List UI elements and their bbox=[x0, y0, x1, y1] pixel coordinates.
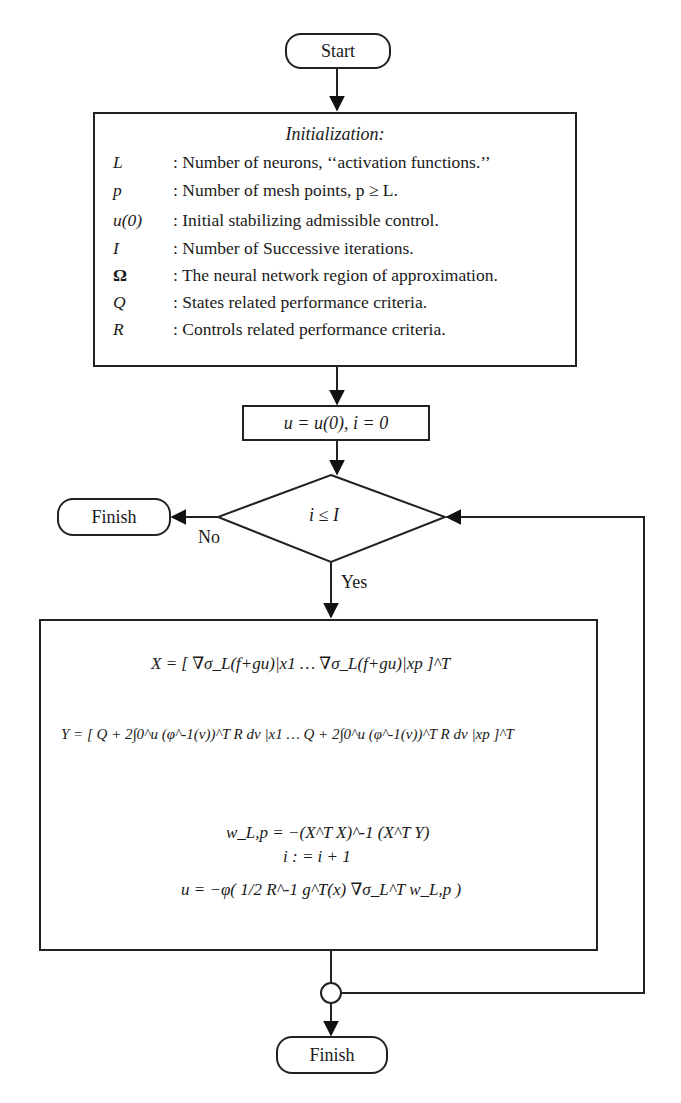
yes-label: Yes bbox=[341, 572, 367, 593]
initialization-title: Initialization: bbox=[95, 124, 575, 145]
i-increment: i : = i + 1 bbox=[283, 847, 351, 867]
x-equation: X = [ ∇σ_L(f+gu)|x1 … ∇σ_L(f+gu)|xp ]^T bbox=[151, 653, 450, 674]
set-initial-text: u = u(0), i = 0 bbox=[284, 413, 388, 434]
finish-left-label: Finish bbox=[91, 507, 136, 528]
merge-node bbox=[321, 983, 341, 1003]
definition-row: L: Number of neurons, ‘‘activation funct… bbox=[113, 152, 491, 173]
no-label: No bbox=[198, 527, 220, 548]
start-label: Start bbox=[321, 41, 355, 62]
definition-row: R: Controls related performance criteria… bbox=[113, 319, 446, 340]
w-equation: w_L,p = −(X^T X)^-1 (X^T Y) bbox=[226, 823, 429, 843]
definition-row: Ω: The neural network region of approxim… bbox=[113, 265, 498, 286]
start-terminal: Start bbox=[285, 33, 391, 69]
definition-row: Q: States related performance criteria. bbox=[113, 292, 427, 313]
definition-row: p: Number of mesh points, p ≥ L. bbox=[113, 180, 398, 201]
finish-bottom-terminal: Finish bbox=[276, 1036, 388, 1074]
definition-row: I: Number of Successive iterations. bbox=[113, 238, 414, 259]
process-box: X = [ ∇σ_L(f+gu)|x1 … ∇σ_L(f+gu)|xp ]^T … bbox=[39, 619, 598, 951]
y-equation: Y = [ Q + 2∫0^u (φ^-1(v))^T R dv |x1 … Q… bbox=[61, 726, 514, 743]
initialization-box: Initialization: L: Number of neurons, ‘‘… bbox=[93, 112, 577, 367]
finish-left-terminal: Finish bbox=[57, 498, 171, 536]
u-update-equation: u = −φ( 1/2 R^-1 g^T(x) ∇σ_L^T w_L,p ) bbox=[181, 879, 461, 900]
decision-condition: i ≤ I bbox=[309, 505, 339, 526]
finish-bottom-label: Finish bbox=[309, 1045, 354, 1066]
definition-row: u(0): Initial stabilizing admissible con… bbox=[113, 210, 439, 231]
set-initial-box: u = u(0), i = 0 bbox=[242, 405, 430, 441]
